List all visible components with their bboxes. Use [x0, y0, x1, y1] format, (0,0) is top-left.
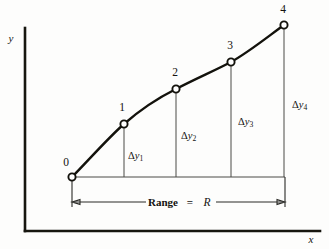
point-label-4: 4	[280, 3, 286, 15]
point-label-2: 2	[172, 66, 178, 78]
delta-y-4-label: Δy4	[292, 99, 307, 112]
delta-y-2-label: Δy2	[181, 130, 196, 143]
figure-container: 0 1 2 3 4 y x Δy1 Δy2 Δy3 Δy4 Range = R	[0, 0, 329, 249]
data-point-0	[68, 173, 75, 180]
y-axis-label: y	[8, 32, 14, 44]
delta-y-2-sub: 2	[192, 134, 196, 143]
data-point-4	[280, 21, 287, 28]
data-point-2	[172, 85, 179, 92]
delta-y-1-label: Δy1	[128, 150, 143, 163]
range-equals-sign: =	[187, 196, 193, 208]
delta-y-3-label: Δy3	[238, 116, 253, 129]
point-label-1: 1	[119, 101, 125, 113]
data-curve	[72, 25, 284, 177]
point-label-0: 0	[63, 156, 69, 168]
range-word-label: Range	[148, 196, 178, 208]
delta-y-4-sub: 4	[303, 103, 307, 112]
x-axis-label: x	[308, 233, 314, 245]
range-symbol-label: R	[202, 196, 210, 208]
data-point-3	[227, 58, 234, 65]
point-label-3: 3	[227, 39, 233, 51]
delta-y-3-sub: 3	[249, 120, 253, 129]
delta-y-1-sub: 1	[139, 154, 143, 163]
data-point-1	[120, 120, 127, 127]
